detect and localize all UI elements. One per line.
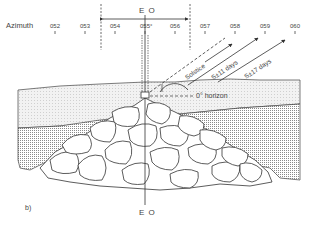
azimuth-axis: Azimuth 052053054055°056057058059060 xyxy=(6,21,301,34)
eo-label-top: E O xyxy=(139,6,156,15)
azimuth-tick-label: 060 xyxy=(290,23,301,29)
horizon-label: 0° horizon xyxy=(196,92,228,99)
cairn-alignment-diagram: Azimuth 052053054055°056057058059060 E O xyxy=(0,0,318,229)
ray-label-solstice: Solstice xyxy=(184,62,207,81)
ray-label-s17: S±17 days xyxy=(243,57,274,81)
panel-label: b) xyxy=(25,204,31,212)
azimuth-tick-label: 052 xyxy=(50,23,61,29)
azimuth-tick-label: 058 xyxy=(230,23,241,29)
azimuth-tick-label: 057 xyxy=(200,23,211,29)
eo-label-bottom: E O xyxy=(139,208,156,217)
azimuth-tick-label: 053 xyxy=(80,23,91,29)
azimuth-tick-label: 056 xyxy=(170,23,181,29)
azimuth-tick-label: 059 xyxy=(260,23,271,29)
azimuth-title: Azimuth xyxy=(6,21,33,30)
rock xyxy=(112,107,139,127)
azimuth-tick-label: 055° xyxy=(140,23,153,29)
rock xyxy=(128,124,157,147)
azimuth-tick-label: 054 xyxy=(110,23,121,29)
ray-solstice-arrow xyxy=(205,44,232,62)
